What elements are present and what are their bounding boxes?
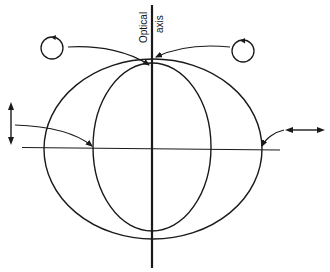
diagram-canvas: Optical axis [0,0,330,272]
right-horizontal-double-arrow [285,127,325,133]
left-vertical-double-arrow [8,102,14,145]
left-circle-pointer-arrow [68,47,149,65]
diagram-svg [0,0,330,272]
optical-axis-label-line1: Optical [139,12,149,43]
right-circle-pointer-arrow [156,46,230,57]
right-pointer-arrow [262,130,284,146]
right-circular-polarization-icon [232,38,254,62]
left-pointer-arrow [15,125,92,146]
optical-axis-label-line2: axis [155,15,165,33]
left-circular-polarization-icon [41,35,63,59]
